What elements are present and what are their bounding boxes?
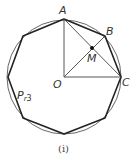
point-M bbox=[90, 46, 94, 50]
label-O: O bbox=[53, 78, 62, 91]
line-OB bbox=[64, 36, 105, 77]
label-M: M bbox=[87, 52, 97, 65]
label-polygon-sub-n: 3 bbox=[27, 94, 32, 103]
label-B: B bbox=[106, 25, 114, 38]
label-polygon: Pr3 bbox=[17, 89, 32, 103]
label-C: C bbox=[122, 76, 130, 89]
label-A: A bbox=[58, 4, 67, 17]
octagon-diagram: A B C O M Pr3 (i) bbox=[0, 0, 136, 161]
figure-caption: (i) bbox=[58, 143, 69, 154]
